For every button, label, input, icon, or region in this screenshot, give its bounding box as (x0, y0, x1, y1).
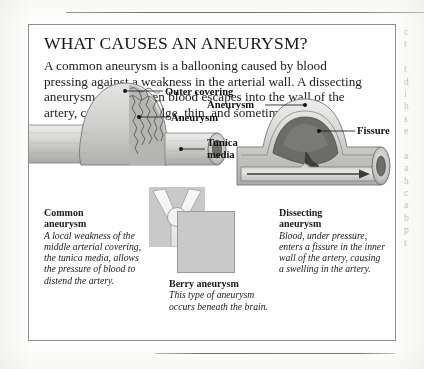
clipped-adjacent-column: cttdihseaahcabpt (404, 26, 424, 344)
caption-common-aneurysm: Common aneurysm A local weakness of the … (44, 207, 148, 286)
caption-berry-aneurysm: Berry aneurysm This type of aneurysm occ… (169, 278, 273, 312)
clipped-line: s (404, 113, 424, 125)
clipped-line: c (404, 26, 424, 38)
blood-flow-arrow (247, 170, 370, 179)
caption-dissecting-aneurysm: Dissecting aneurysm Blood, under pressur… (279, 207, 385, 275)
clipped-line (404, 51, 424, 63)
clipped-line: c (404, 187, 424, 199)
label-outer-covering: Outer covering (165, 86, 233, 98)
clipped-line: e (404, 125, 424, 137)
label-tunica-media-line1: Tunica (207, 137, 238, 149)
label-fissure: Fissure (357, 125, 390, 137)
caption-body: This type of aneurysm occurs beneath the… (169, 289, 273, 311)
clipped-line: t (404, 237, 424, 249)
clipped-line: a (404, 162, 424, 174)
clipped-line: i (404, 88, 424, 100)
clipped-line: t (404, 63, 424, 75)
caption-heading-line1: Dissecting (279, 207, 385, 218)
clipped-line: d (404, 76, 424, 88)
clipped-line: a (404, 150, 424, 162)
clipped-line: a (404, 199, 424, 211)
clipped-line (404, 138, 424, 150)
berry-aneurysm-panel (177, 211, 235, 273)
clipped-line: h (404, 100, 424, 112)
caption-heading-line1: Berry aneurysm (169, 278, 273, 289)
label-tunica-media-line2: media (207, 149, 235, 161)
clipped-line: b (404, 212, 424, 224)
caption-heading-line2: aneurysm (44, 218, 148, 229)
label-aneurysm-right: Aneurysm (207, 99, 254, 111)
caption-body: Blood, under pressure, enters a fissure … (279, 230, 385, 275)
aneurysm-info-box: WHAT CAUSES AN ANEURYSM? A common aneury… (28, 24, 396, 341)
caption-body: A local weakness of the middle arterial … (44, 230, 148, 286)
horizontal-rule-top (66, 12, 424, 13)
horizontal-rule-bottom (155, 353, 395, 354)
clipped-line: t (404, 38, 424, 50)
clipped-line: h (404, 175, 424, 187)
caption-heading-line1: Common (44, 207, 148, 218)
scanned-page: WHAT CAUSES AN ANEURYSM? A common aneury… (0, 0, 424, 369)
label-aneurysm-left: Aneurysm (171, 112, 218, 124)
page-title: WHAT CAUSES AN ANEURYSM? (44, 33, 308, 54)
clipped-line: p (404, 224, 424, 236)
caption-heading-line2: aneurysm (279, 218, 385, 229)
